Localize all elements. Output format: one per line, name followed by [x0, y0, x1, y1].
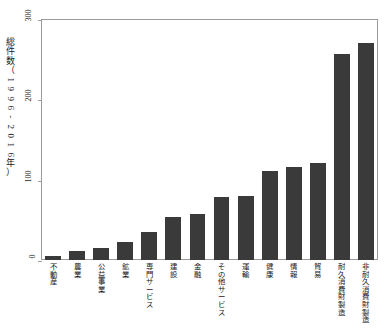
x-axis-tick-label-char: 康: [264, 271, 276, 279]
x-axis-tick-label-char: 業: [71, 271, 83, 279]
x-axis-tick-label: 不動産: [47, 263, 59, 286]
bar-fill: [165, 217, 181, 260]
y-axis-title: 総件数（1996-2016年）: [2, 38, 18, 177]
bar[interactable]: [117, 242, 133, 260]
x-axis-tick-label-char: 設: [167, 271, 179, 279]
bar[interactable]: [165, 217, 181, 260]
y-axis-tick-label: 300: [10, 11, 34, 20]
x-axis-tick-label-char: 造: [336, 309, 348, 317]
bar[interactable]: [214, 197, 230, 260]
bar-fill: [310, 163, 326, 260]
x-axis-tick-label-char: 産: [47, 278, 59, 286]
y-axis-tick-label: 200: [10, 91, 34, 100]
x-axis-tick-labels: 不動産農業公益事業鉱業専門サービス建設金融その他サービス運輸健康情報貿易耐久消費…: [41, 263, 378, 328]
x-axis-tick-label-char: 易: [312, 271, 324, 279]
x-axis-tick-label-char: 報: [288, 271, 300, 279]
bar[interactable]: [45, 256, 61, 260]
x-axis-tick-label: 健康: [264, 263, 276, 278]
x-axis-tick-label-char: 輸: [240, 271, 252, 279]
bar-fill: [45, 256, 61, 260]
bar[interactable]: [286, 167, 302, 260]
y-axis-tick-label: 100: [10, 172, 34, 181]
bar-fill: [141, 232, 157, 260]
bar-series: [41, 19, 378, 260]
bar-fill: [358, 43, 374, 260]
bar-fill: [93, 248, 109, 260]
y-axis-tick-label: 0: [10, 252, 34, 261]
x-axis-tick-label-char: 業: [119, 271, 131, 279]
bar[interactable]: [238, 196, 254, 260]
bar[interactable]: [93, 248, 109, 260]
x-axis-tick-label-char: ス: [143, 301, 155, 309]
bar[interactable]: [141, 232, 157, 260]
x-axis-tick-label: 建設: [167, 263, 179, 278]
y-axis-title-char: 6: [5, 146, 14, 162]
bar-fill: [238, 196, 254, 260]
bar[interactable]: [69, 251, 85, 260]
bar-chart: 総件数（1996-2016年） 0100200300 不動産農業公益事業鉱業専門…: [0, 0, 385, 328]
bar-fill: [190, 214, 206, 260]
bar[interactable]: [310, 163, 326, 260]
bar-fill: [286, 167, 302, 260]
x-axis-tick-label: 運輸: [240, 263, 252, 278]
x-axis-tick-label: その他サービス: [216, 263, 228, 316]
x-axis-tick-label: 専門サービス: [143, 263, 155, 309]
x-axis-tick-label: 貿易: [312, 263, 324, 278]
bar[interactable]: [334, 54, 350, 260]
bar-fill: [334, 54, 350, 260]
x-axis-tick-label-char: 業: [95, 286, 107, 294]
y-axis-tickmark: [38, 261, 42, 262]
bar-fill: [214, 197, 230, 260]
bar[interactable]: [262, 171, 278, 260]
x-axis-tick-label: 情報: [288, 263, 300, 278]
x-axis-tick-label: 非耐久消費財製造: [360, 263, 372, 324]
x-axis-tick-label: 耐久消費財製造: [336, 263, 348, 316]
x-axis-tick-label: 農業: [71, 263, 83, 278]
bar[interactable]: [358, 43, 374, 260]
x-axis-tick-label: 金融: [191, 263, 203, 278]
bar-fill: [262, 171, 278, 260]
x-axis-tick-label-char: 造: [360, 316, 372, 324]
bar[interactable]: [190, 214, 206, 260]
x-axis-tick-label: 公益事業: [95, 263, 107, 293]
x-axis-tick-label-char: 融: [191, 271, 203, 279]
bar-fill: [69, 251, 85, 260]
x-axis-tick-label: 鉱業: [119, 263, 131, 278]
bar-fill: [117, 242, 133, 260]
x-axis-tick-label-char: ス: [216, 309, 228, 317]
